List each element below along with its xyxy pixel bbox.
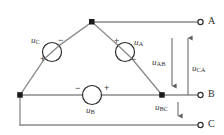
source-c-plus-sign: + bbox=[40, 55, 45, 64]
node-left bbox=[17, 92, 23, 98]
node-apex bbox=[89, 19, 95, 25]
circuit-diagram-figure: uC − + uA + − uB − + uAB uCA uBC A B C bbox=[0, 0, 224, 135]
source-a-plus-sign: + bbox=[114, 37, 119, 46]
node-right bbox=[159, 92, 165, 98]
u-bc-label: uBC bbox=[155, 103, 168, 113]
source-c-slash bbox=[45, 46, 59, 59]
u-ca-label: uCA bbox=[192, 64, 206, 74]
wire-apex-to-source-c bbox=[59, 22, 92, 46]
source-a-slash bbox=[118, 46, 132, 59]
source-b-plus-sign: + bbox=[104, 84, 109, 93]
source-a-label: uA bbox=[134, 38, 143, 48]
source-b-circle bbox=[83, 86, 102, 105]
u-ab-label: uAB bbox=[152, 58, 166, 68]
terminal-c-marker[interactable] bbox=[198, 122, 203, 127]
circuit-schematic-svg bbox=[0, 0, 224, 135]
terminal-c-label: C bbox=[208, 119, 215, 129]
terminal-b-marker[interactable] bbox=[198, 92, 203, 97]
terminal-a-marker[interactable] bbox=[198, 19, 203, 24]
line-voltage-arrows bbox=[172, 38, 188, 116]
source-a-minus-sign: − bbox=[131, 55, 136, 64]
source-b-label: uB bbox=[86, 106, 95, 116]
terminal-a-label: A bbox=[208, 16, 215, 26]
source-c-minus-sign: − bbox=[58, 36, 63, 45]
source-c-label: uC bbox=[31, 36, 40, 46]
terminal-b-label: B bbox=[208, 89, 215, 99]
source-b-minus-sign: − bbox=[75, 84, 80, 93]
